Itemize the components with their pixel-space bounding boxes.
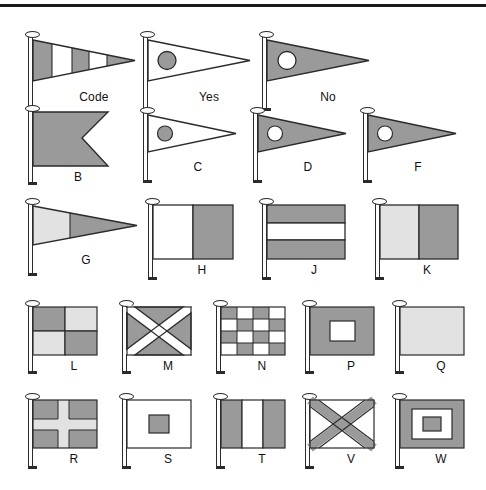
flag-label-l: L <box>54 359 94 373</box>
pole-foot-icon <box>216 466 225 469</box>
flag-label-d: D <box>283 160 333 174</box>
flag-graphic-w <box>399 398 465 450</box>
flag-graphic-j <box>266 203 346 261</box>
pole-foot-icon <box>253 180 262 183</box>
flag-graphic-k <box>379 203 459 261</box>
flag-label-no: No <box>298 90 358 104</box>
flag-graphic-l <box>32 305 98 357</box>
flag-graphic-m <box>126 305 192 357</box>
pole-foot-icon <box>28 466 37 469</box>
flag-label-m: M <box>148 359 188 373</box>
flag-graphic-b <box>32 110 110 168</box>
pole-foot-icon <box>395 466 404 469</box>
pole-foot-icon <box>122 371 131 374</box>
signal-flag-chart: Code Yes No <box>0 0 486 490</box>
flag-graphic-d <box>257 112 347 156</box>
pole-foot-icon <box>28 273 37 276</box>
flag-graphic-q <box>399 305 465 357</box>
flag-label-j: J <box>294 263 334 277</box>
pole-foot-icon <box>143 180 152 183</box>
flag-label-w: W <box>421 452 461 466</box>
flag-graphic-r <box>32 398 98 450</box>
flag-graphic-no <box>266 36 370 86</box>
pole-foot-icon <box>148 277 157 280</box>
flag-graphic-n <box>220 305 286 357</box>
flag-label-f: F <box>393 160 443 174</box>
pole-foot-icon <box>305 371 314 374</box>
pole-foot-icon <box>122 466 131 469</box>
flag-graphic-f <box>367 112 457 156</box>
flag-graphic-g <box>32 203 138 249</box>
pole-foot-icon <box>262 277 271 280</box>
flag-label-h: H <box>182 263 222 277</box>
flag-label-t: T <box>242 452 282 466</box>
flag-label-g: G <box>66 253 106 267</box>
flag-label-k: K <box>407 263 447 277</box>
pole-foot-icon <box>28 371 37 374</box>
pole-foot-icon <box>363 180 372 183</box>
pole-foot-icon <box>395 371 404 374</box>
flag-label-v: V <box>331 452 371 466</box>
flag-label-p: P <box>331 359 371 373</box>
pole-foot-icon <box>375 277 384 280</box>
pole-foot-icon <box>28 182 37 185</box>
flag-label-c: C <box>173 160 223 174</box>
flag-label-b: B <box>58 170 98 184</box>
flag-label-r: R <box>54 452 94 466</box>
flag-graphic-s <box>126 398 192 450</box>
flag-label-s: S <box>148 452 188 466</box>
flag-label-n: N <box>242 359 282 373</box>
flag-label-yes: Yes <box>179 90 239 104</box>
flag-graphic-c <box>147 112 237 156</box>
pole-foot-icon <box>216 371 225 374</box>
flag-graphic-v <box>309 398 375 450</box>
flag-label-q: Q <box>421 359 461 373</box>
flag-graphic-t <box>220 398 286 450</box>
pole-foot-icon <box>305 466 314 469</box>
flag-label-code: Code <box>64 90 124 104</box>
flag-graphic-yes <box>147 36 251 86</box>
flag-graphic-p <box>309 305 375 357</box>
top-divider-rule <box>0 4 486 7</box>
flag-graphic-code <box>32 36 136 86</box>
flag-graphic-h <box>152 203 234 261</box>
